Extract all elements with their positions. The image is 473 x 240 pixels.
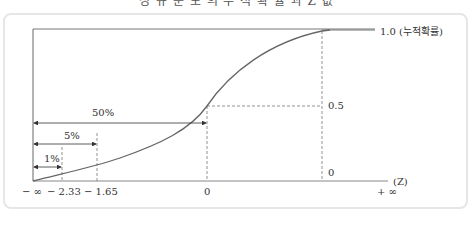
- tick-165: − 1.65: [84, 186, 118, 197]
- tick-neg-inf: − ∞: [22, 186, 42, 197]
- cdf-curve: [33, 30, 330, 181]
- z-axis-label: (Z): [393, 176, 408, 187]
- tick-pos-inf: + ∞: [377, 186, 397, 197]
- label-zero-y: 0: [328, 167, 334, 178]
- tick-233: − 2.33: [47, 186, 81, 197]
- label-1pct: 1%: [44, 153, 60, 164]
- label-50pct: 50%: [92, 107, 114, 118]
- label-5pct: 5%: [64, 130, 80, 141]
- tick-0: 0: [204, 186, 210, 197]
- label-one: 1.0 (누적확률): [380, 23, 443, 38]
- label-half: 0.5: [328, 100, 344, 111]
